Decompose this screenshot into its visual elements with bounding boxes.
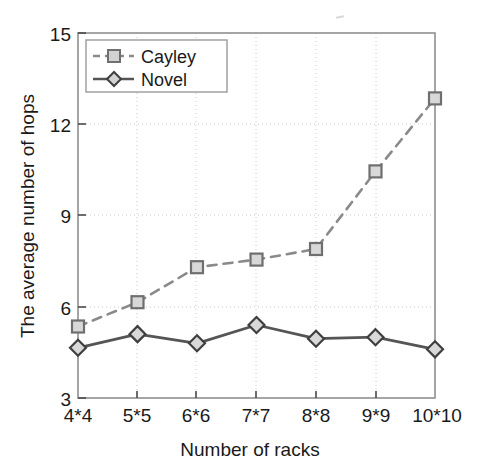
x-tick-label-6x6: 6*6 xyxy=(182,405,211,426)
data-point-cayley-8x8[interactable] xyxy=(310,243,322,255)
y-axis-title: The average number of hops xyxy=(17,94,38,338)
chart-figure: 15 12 9 6 3 4*4 5*5 6*6 7*7 8*8 9*9 10*1… xyxy=(0,0,477,468)
x-tick-label-10x10: 10*10 xyxy=(412,405,462,426)
data-point-cayley-10x10[interactable] xyxy=(429,92,441,104)
x-tick-label-4x4: 4*4 xyxy=(64,405,93,426)
legend[interactable]: Cayley Novel xyxy=(86,40,227,92)
y-tick-label-6: 6 xyxy=(60,298,71,319)
line-chart: 15 12 9 6 3 4*4 5*5 6*6 7*7 8*8 9*9 10*1… xyxy=(0,0,477,468)
data-point-cayley-7x7[interactable] xyxy=(251,254,263,266)
y-tick-label-9: 9 xyxy=(60,206,71,227)
data-point-cayley-5x5[interactable] xyxy=(132,296,144,308)
x-tick-label-5x5: 5*5 xyxy=(123,405,152,426)
data-point-cayley-6x6[interactable] xyxy=(191,261,203,273)
y-tick-label-12: 12 xyxy=(50,115,71,136)
legend-label-cayley: Cayley xyxy=(141,47,196,67)
x-axis-title: Number of racks xyxy=(180,439,319,460)
x-tick-label-7x7: 7*7 xyxy=(242,405,271,426)
y-tick-label-15: 15 xyxy=(50,24,71,45)
x-tick-label-9x9: 9*9 xyxy=(362,405,391,426)
data-point-cayley-9x9[interactable] xyxy=(370,165,382,177)
x-tick-label-8x8: 8*8 xyxy=(302,405,331,426)
legend-label-novel: Novel xyxy=(141,70,187,90)
data-point-cayley-4x4[interactable] xyxy=(72,321,84,333)
legend-marker-square-icon xyxy=(108,50,120,62)
